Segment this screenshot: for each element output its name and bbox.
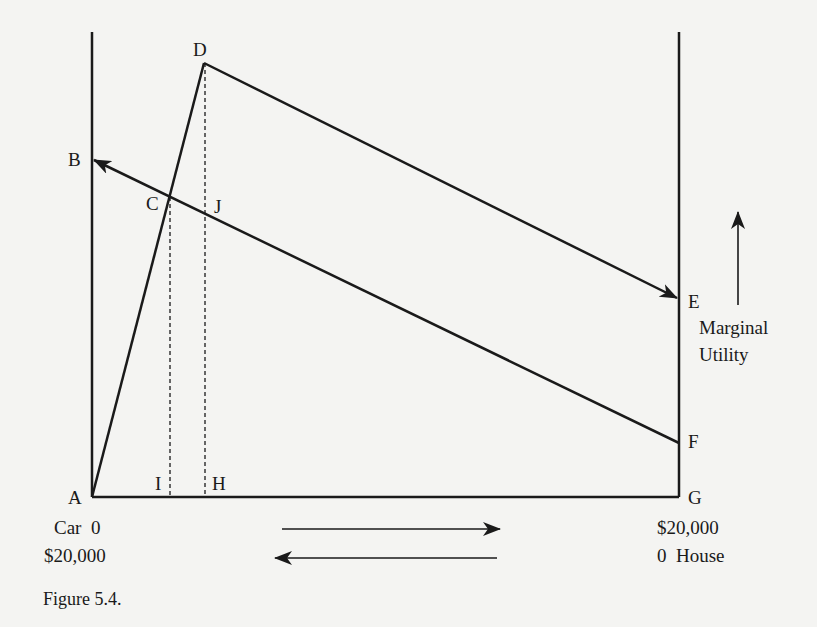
arrow-d-e bbox=[204, 63, 677, 298]
line-a-d bbox=[92, 63, 204, 497]
point-label-h: H bbox=[212, 474, 226, 493]
left-axis-label-1: Car 0 bbox=[54, 518, 100, 537]
y-label-line2: Utility bbox=[699, 345, 749, 364]
point-label-e: E bbox=[688, 292, 700, 311]
point-label-b: B bbox=[68, 150, 81, 169]
arrow-f-b bbox=[94, 160, 679, 443]
point-label-d: D bbox=[193, 40, 207, 59]
y-label-line1: Marginal bbox=[699, 318, 768, 337]
point-label-i: I bbox=[155, 474, 161, 493]
point-label-f: F bbox=[688, 432, 699, 451]
point-label-g: G bbox=[688, 488, 702, 507]
point-label-c: C bbox=[146, 194, 159, 213]
left-axis-label-2: $20,000 bbox=[44, 546, 106, 565]
right-axis-label-2: 0 House bbox=[657, 546, 725, 565]
right-axis-label-1: $20,000 bbox=[657, 518, 719, 537]
point-label-j: J bbox=[214, 197, 221, 216]
figure-caption: Figure 5.4. bbox=[43, 590, 122, 608]
point-label-a: A bbox=[68, 488, 82, 507]
